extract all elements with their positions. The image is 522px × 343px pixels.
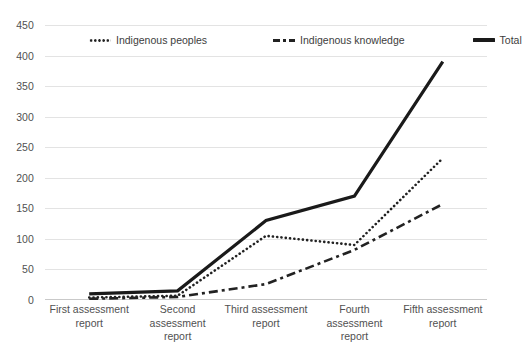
x-axis-category-label: Fourth assessment report — [310, 303, 398, 343]
solid-line-icon — [473, 38, 495, 41]
plot-area — [45, 25, 487, 300]
y-axis-tick-label: 450 — [16, 19, 34, 31]
series-line — [89, 204, 443, 299]
dotted-line-icon — [89, 39, 111, 42]
series-line — [89, 62, 443, 294]
legend-label: Total — [500, 34, 522, 46]
y-axis-tick-label: 350 — [16, 80, 34, 92]
x-axis-category-label: Third assessment report — [222, 303, 310, 343]
chart-legend: Indigenous peoples Indigenous knowledge … — [45, 30, 487, 50]
y-axis-tick-label: 250 — [16, 141, 34, 153]
dash-dot-line-icon — [273, 39, 295, 42]
series-layer — [45, 25, 487, 300]
legend-label: Indigenous knowledge — [300, 34, 405, 46]
legend-item-total: Total — [473, 34, 522, 46]
series-line — [89, 158, 443, 297]
x-axis-category-labels: First assessment reportSecond assessment… — [45, 303, 487, 343]
y-axis-tick-label: 150 — [16, 202, 34, 214]
legend-label: Indigenous peoples — [116, 34, 207, 46]
legend-item-indigenous-peoples: Indigenous peoples — [89, 34, 207, 46]
y-axis-tick-label: 200 — [16, 172, 34, 184]
y-axis-tick-label: 0 — [28, 294, 34, 306]
x-axis-category-label: First assessment report — [45, 303, 133, 343]
legend-item-indigenous-knowledge: Indigenous knowledge — [273, 34, 405, 46]
x-axis-category-label: Fifth assessment report — [399, 303, 487, 343]
y-axis-tick-label: 400 — [16, 50, 34, 62]
y-axis-tick-labels: 050100150200250300350400450 — [0, 25, 40, 300]
y-axis-tick-label: 50 — [22, 263, 34, 275]
x-axis-category-label: Second assessment report — [133, 303, 221, 343]
y-axis-tick-label: 300 — [16, 111, 34, 123]
y-axis-tick-label: 100 — [16, 233, 34, 245]
